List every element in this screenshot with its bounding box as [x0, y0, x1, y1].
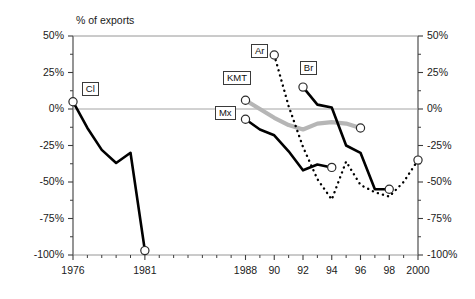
series-label-cl: Cl — [82, 82, 99, 96]
y-axis-tick-label-left: 0% — [0, 102, 64, 114]
y-axis-tick-label-right: 50% — [427, 29, 448, 41]
y-axis-tick-label-left: -75% — [0, 212, 64, 224]
y-axis-tick-label-left: 50% — [0, 29, 64, 41]
series-endpoint-marker-cl-end — [141, 247, 149, 255]
y-axis-tick-label-right: 25% — [427, 66, 448, 78]
series-label-br: Br — [300, 61, 318, 75]
series-label-ar: Ar — [251, 44, 269, 58]
series-endpoint-marker-kmt-end — [356, 124, 364, 132]
series-endpoint-marker-kmt-start — [241, 96, 249, 104]
series-line-kmt — [246, 100, 361, 129]
y-axis-tick-label-left: -100% — [0, 248, 64, 260]
y-axis-tick-label-left: -50% — [0, 175, 64, 187]
x-axis-tick-label: 2000 — [394, 264, 442, 276]
chart-plot-area — [0, 0, 475, 299]
series-label-kmt: KMT — [223, 71, 251, 85]
chart-figure: % of exports 50%50%25%25%0%0%-25%-25%-50… — [0, 0, 475, 299]
x-axis-tick-label: 1981 — [121, 264, 169, 276]
y-axis-tick-label-right: -25% — [427, 139, 452, 151]
series-endpoint-marker-mx-start — [241, 115, 249, 123]
y-axis-tick-label-right: -50% — [427, 175, 452, 187]
series-line-cl — [73, 102, 145, 251]
series-endpoint-marker-ar-end — [414, 156, 422, 164]
series-endpoint-marker-ar-start — [270, 51, 278, 59]
y-axis-tick-label-left: 25% — [0, 66, 64, 78]
x-axis-tick-label: 1976 — [49, 264, 97, 276]
y-axis-tick-label-right: -75% — [427, 212, 452, 224]
y-axis-tick-label-left: -25% — [0, 139, 64, 151]
series-endpoint-marker-cl-start — [69, 98, 77, 106]
series-label-mx: Mx — [215, 106, 236, 120]
y-axis-tick-label-right: 0% — [427, 102, 442, 114]
series-endpoint-marker-mx-end — [328, 163, 336, 171]
y-axis-tick-label-right: -100% — [427, 248, 457, 260]
series-line-ar — [274, 55, 418, 200]
series-endpoint-marker-br-end — [385, 185, 393, 193]
series-endpoint-marker-br-start — [299, 83, 307, 91]
